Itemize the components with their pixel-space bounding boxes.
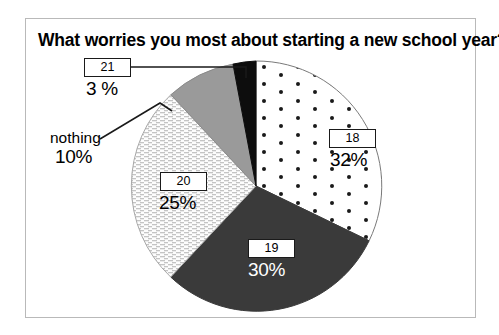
slice-percent-nothing: 10% (55, 146, 92, 168)
chart-screenshot: What worries you most about starting a n… (0, 0, 499, 335)
slice-percent-21: 3 % (86, 78, 118, 100)
slice-label-box-18: 18 (329, 129, 376, 148)
slice-label-box-19: 19 (248, 239, 295, 258)
slice-percent-19: 30% (248, 259, 285, 281)
slice-label-box-20: 20 (160, 172, 207, 191)
slice-label-nothing: nothing (50, 129, 101, 147)
slice-percent-20: 25% (159, 192, 196, 214)
slice-label-box-21: 21 (84, 58, 131, 77)
slice-percent-18: 32% (330, 149, 367, 171)
